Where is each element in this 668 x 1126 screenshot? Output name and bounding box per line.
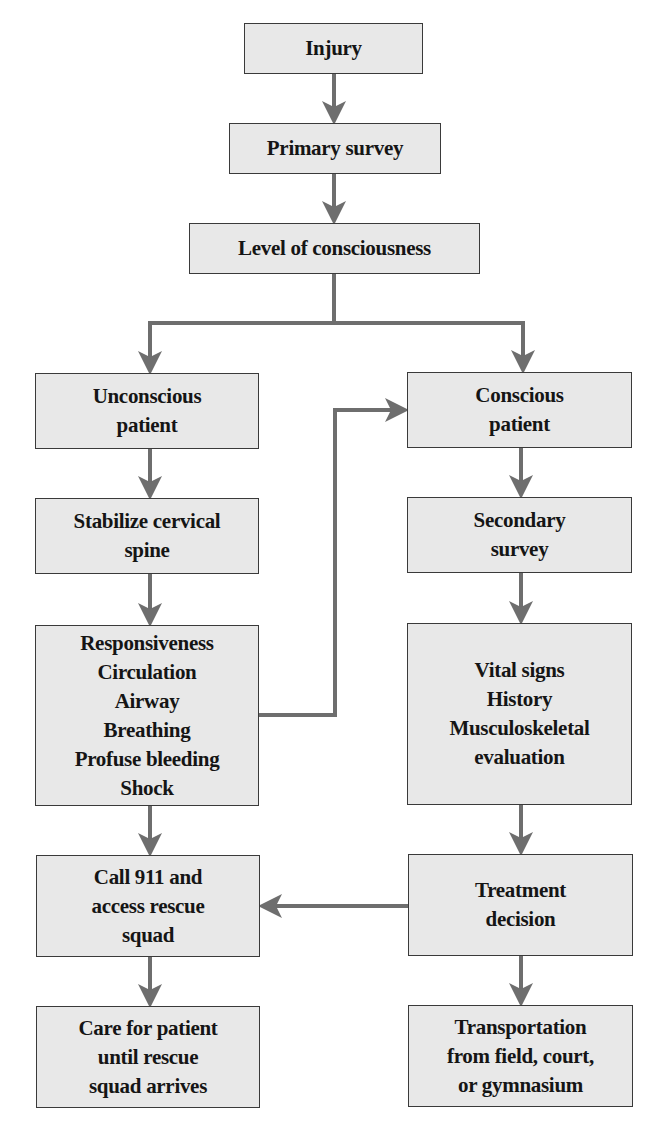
node-label: Unconscious <box>93 382 202 411</box>
node-label: Responsiveness <box>80 629 214 658</box>
node-label: History <box>487 685 553 714</box>
node-label: evaluation <box>474 743 564 772</box>
node-unconscious-patient: Unconscious patient <box>35 373 259 449</box>
node-label: Breathing <box>104 716 191 745</box>
node-stabilize-cervical-spine: Stabilize cervical spine <box>35 498 259 574</box>
node-label: Stabilize cervical <box>74 507 221 536</box>
node-unconscious-checks: Responsiveness Circulation Airway Breath… <box>35 625 259 806</box>
node-label: Shock <box>120 774 173 803</box>
node-label: from field, court, <box>447 1042 594 1071</box>
node-label: decision <box>486 905 556 934</box>
node-label: Level of consciousness <box>238 234 431 263</box>
node-label: Conscious <box>475 381 563 410</box>
node-label: Primary survey <box>267 134 403 163</box>
node-treatment-decision: Treatment decision <box>408 854 633 956</box>
node-conscious-evaluation: Vital signs History Musculoskeletal eval… <box>407 623 632 805</box>
injury-evaluation-flowchart: Injury Primary survey Level of conscious… <box>0 0 668 1126</box>
node-label: Circulation <box>98 658 197 687</box>
node-label: patient <box>489 410 550 439</box>
node-label: patient <box>117 411 178 440</box>
node-secondary-survey: Secondary survey <box>407 497 632 573</box>
node-level-of-consciousness: Level of consciousness <box>189 223 480 274</box>
arrow-level-to-unconscious <box>150 274 334 371</box>
node-conscious-patient: Conscious patient <box>407 372 632 448</box>
node-label: Care for patient <box>78 1014 217 1043</box>
arrow-level-to-conscious <box>334 323 523 370</box>
node-label: squad <box>122 921 174 950</box>
node-label: Musculoskeletal <box>449 714 589 743</box>
node-call-911: Call 911 and access rescue squad <box>36 855 260 957</box>
node-label: Treatment <box>475 876 566 905</box>
node-transportation: Transportation from field, court, or gym… <box>408 1005 633 1107</box>
node-label: Profuse bleeding <box>75 745 220 774</box>
node-label: Call 911 and <box>94 863 202 892</box>
node-label: Transportation <box>455 1013 587 1042</box>
node-label: Airway <box>115 687 180 716</box>
node-injury: Injury <box>244 23 423 74</box>
node-primary-survey: Primary survey <box>229 123 441 174</box>
node-label: until rescue <box>98 1043 198 1072</box>
node-label: access rescue <box>92 892 205 921</box>
node-label: Injury <box>305 34 362 63</box>
node-label: or gymnasium <box>458 1071 583 1100</box>
arrow-checks-to-conscious <box>259 410 405 715</box>
node-care-for-patient: Care for patient until rescue squad arri… <box>36 1006 260 1108</box>
node-label: Secondary <box>474 506 566 535</box>
node-label: survey <box>491 535 549 564</box>
node-label: squad arrives <box>89 1072 207 1101</box>
node-label: spine <box>124 536 169 565</box>
node-label: Vital signs <box>475 656 565 685</box>
